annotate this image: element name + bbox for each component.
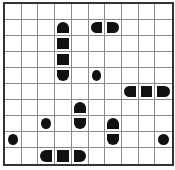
grid-cell-r6-c4[interactable] (72, 100, 89, 116)
grid-cell-r1-c6[interactable] (105, 20, 122, 36)
grid-cell-r0-c0[interactable] (5, 4, 22, 20)
grid-cell-r4-c6[interactable] (105, 68, 122, 84)
grid-cell-r4-c4[interactable] (72, 68, 89, 84)
grid-cell-r2-c3[interactable] (55, 36, 72, 52)
grid-cell-r7-c7[interactable] (122, 116, 139, 132)
grid-cell-r7-c9[interactable] (155, 116, 172, 132)
grid-cell-r5-c9[interactable] (155, 84, 172, 100)
grid-cell-r5-c6[interactable] (105, 84, 122, 100)
grid-cell-r8-c1[interactable] (22, 132, 39, 148)
grid-cell-r8-c8[interactable] (139, 132, 156, 148)
grid-cell-r6-c9[interactable] (155, 100, 172, 116)
grid-cell-r1-c2[interactable] (38, 20, 55, 36)
grid-cell-r5-c4[interactable] (72, 84, 89, 100)
grid-cell-r7-c5[interactable] (89, 116, 106, 132)
grid-cell-r1-c5[interactable] (89, 20, 106, 36)
grid-cell-r6-c5[interactable] (89, 100, 106, 116)
grid-cell-r3-c0[interactable] (5, 52, 22, 68)
grid-cell-r0-c8[interactable] (139, 4, 156, 20)
grid-cell-r0-c3[interactable] (55, 4, 72, 20)
grid-cell-r6-c3[interactable] (55, 100, 72, 116)
grid-cell-r8-c4[interactable] (72, 132, 89, 148)
grid-cell-r0-c2[interactable] (38, 4, 55, 20)
grid-cell-r1-c7[interactable] (122, 20, 139, 36)
grid-cell-r1-c4[interactable] (72, 20, 89, 36)
grid-cell-r5-c0[interactable] (5, 84, 22, 100)
grid-cell-r8-c9[interactable] (155, 132, 172, 148)
grid-cell-r5-c3[interactable] (55, 84, 72, 100)
grid-cell-r4-c1[interactable] (22, 68, 39, 84)
grid-cell-r3-c9[interactable] (155, 52, 172, 68)
grid-cell-r1-c3[interactable] (55, 20, 72, 36)
grid-cell-r9-c1[interactable] (22, 148, 39, 164)
grid-cell-r7-c3[interactable] (55, 116, 72, 132)
grid-cell-r8-c2[interactable] (38, 132, 55, 148)
grid-cell-r9-c7[interactable] (122, 148, 139, 164)
grid-cell-r3-c6[interactable] (105, 52, 122, 68)
grid-cell-r2-c7[interactable] (122, 36, 139, 52)
grid-cell-r3-c3[interactable] (55, 52, 72, 68)
grid-cell-r3-c2[interactable] (38, 52, 55, 68)
grid-cell-r6-c8[interactable] (139, 100, 156, 116)
grid-cell-r8-c0[interactable] (5, 132, 22, 148)
grid-cell-r9-c6[interactable] (105, 148, 122, 164)
grid-cell-r9-c9[interactable] (155, 148, 172, 164)
grid-cell-r3-c5[interactable] (89, 52, 106, 68)
grid-cell-r3-c8[interactable] (139, 52, 156, 68)
grid-cell-r9-c2[interactable] (38, 148, 55, 164)
grid-cell-r9-c8[interactable] (139, 148, 156, 164)
grid-cell-r2-c5[interactable] (89, 36, 106, 52)
grid-cell-r5-c5[interactable] (89, 84, 106, 100)
grid-cell-r3-c4[interactable] (72, 52, 89, 68)
grid-cell-r0-c1[interactable] (22, 4, 39, 20)
grid-cell-r6-c0[interactable] (5, 100, 22, 116)
grid-cell-r6-c2[interactable] (38, 100, 55, 116)
grid-cell-r8-c7[interactable] (122, 132, 139, 148)
grid-cell-r4-c3[interactable] (55, 68, 72, 84)
grid-cell-r9-c0[interactable] (5, 148, 22, 164)
grid-cell-r4-c8[interactable] (139, 68, 156, 84)
grid-cell-r7-c6[interactable] (105, 116, 122, 132)
grid-cell-r0-c9[interactable] (155, 4, 172, 20)
grid-cell-r7-c4[interactable] (72, 116, 89, 132)
grid-cell-r8-c5[interactable] (89, 132, 106, 148)
grid-cell-r7-c8[interactable] (139, 116, 156, 132)
grid-cell-r1-c9[interactable] (155, 20, 172, 36)
grid-cell-r6-c1[interactable] (22, 100, 39, 116)
grid-cell-r4-c0[interactable] (5, 68, 22, 84)
grid-cell-r4-c2[interactable] (38, 68, 55, 84)
grid-cell-r0-c5[interactable] (89, 4, 106, 20)
grid-cell-r1-c1[interactable] (22, 20, 39, 36)
grid-cell-r5-c8[interactable] (139, 84, 156, 100)
grid-cell-r5-c7[interactable] (122, 84, 139, 100)
grid-cell-r3-c1[interactable] (22, 52, 39, 68)
grid-cell-r6-c6[interactable] (105, 100, 122, 116)
grid-cell-r7-c2[interactable] (38, 116, 55, 132)
grid-cell-r7-c0[interactable] (5, 116, 22, 132)
grid-cell-r2-c4[interactable] (72, 36, 89, 52)
grid-cell-r9-c5[interactable] (89, 148, 106, 164)
grid-cell-r2-c0[interactable] (5, 36, 22, 52)
grid-cell-r8-c6[interactable] (105, 132, 122, 148)
grid-cell-r5-c1[interactable] (22, 84, 39, 100)
grid-cell-r4-c5[interactable] (89, 68, 106, 84)
grid-cell-r0-c7[interactable] (122, 4, 139, 20)
grid-cell-r2-c8[interactable] (139, 36, 156, 52)
grid-cell-r6-c7[interactable] (122, 100, 139, 116)
grid-cell-r2-c1[interactable] (22, 36, 39, 52)
grid-cell-r8-c3[interactable] (55, 132, 72, 148)
grid-cell-r1-c8[interactable] (139, 20, 156, 36)
grid-cell-r7-c1[interactable] (22, 116, 39, 132)
grid-cell-r4-c7[interactable] (122, 68, 139, 84)
grid-cell-r2-c9[interactable] (155, 36, 172, 52)
grid-cell-r5-c2[interactable] (38, 84, 55, 100)
grid-cell-r1-c0[interactable] (5, 20, 22, 36)
grid-cell-r4-c9[interactable] (155, 68, 172, 84)
grid-cell-r3-c7[interactable] (122, 52, 139, 68)
grid-cell-r0-c6[interactable] (105, 4, 122, 20)
grid-cell-r9-c4[interactable] (72, 148, 89, 164)
grid-cell-r0-c4[interactable] (72, 4, 89, 20)
grid-cell-r9-c3[interactable] (55, 148, 72, 164)
grid-cell-r2-c2[interactable] (38, 36, 55, 52)
grid-cell-r2-c6[interactable] (105, 36, 122, 52)
